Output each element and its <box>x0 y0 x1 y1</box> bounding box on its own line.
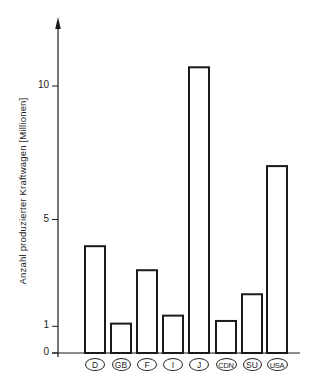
category-label-j: J <box>189 358 209 371</box>
bar-f <box>137 270 157 353</box>
bar-d <box>85 246 105 353</box>
category-label-d: D <box>85 358 105 371</box>
bar-su <box>242 294 262 353</box>
bar-cdn <box>216 321 236 353</box>
bar-i <box>163 316 183 353</box>
y-tick-label: 5 <box>29 213 49 224</box>
bar-chart: Anzahl produzierter Kraftwagen [Millione… <box>0 0 314 389</box>
bars <box>85 67 287 353</box>
y-axis-label: Anzahl produzierter Kraftwagen [Millione… <box>17 98 28 285</box>
bar-gb <box>111 324 131 353</box>
bar-j <box>189 67 209 353</box>
y-tick-label: 0 <box>29 346 49 357</box>
category-label-cdn: CDN <box>216 358 237 371</box>
chart-canvas <box>0 0 314 389</box>
category-label-f: F <box>137 358 157 371</box>
category-label-gb: GB <box>112 358 131 371</box>
y-tick-label: 10 <box>29 79 49 90</box>
category-label-su: SU <box>243 358 262 371</box>
category-label-i: I <box>163 358 183 371</box>
y-tick-label: 1 <box>29 319 49 330</box>
category-label-usa: USA <box>267 358 288 371</box>
y-axis-arrow-icon <box>55 17 61 29</box>
bar-usa <box>267 166 287 353</box>
